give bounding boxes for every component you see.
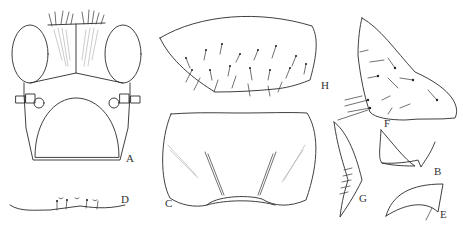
figure: A B C D E F G H — [0, 0, 463, 231]
panel-e-drawing — [386, 184, 443, 220]
panel-c-drawing — [163, 113, 316, 207]
panel-label-c: C — [165, 198, 172, 209]
panel-label-g: G — [359, 193, 367, 204]
panel-label-b: B — [434, 166, 441, 177]
panel-label-a: A — [126, 153, 134, 164]
figure-drawing — [0, 0, 463, 231]
panel-a-drawing — [12, 10, 141, 160]
panel-f-drawing — [338, 18, 457, 120]
panel-label-h: H — [321, 80, 329, 91]
panel-label-d: D — [121, 194, 129, 205]
panel-label-e: E — [440, 209, 447, 220]
panel-label-f: F — [384, 118, 390, 129]
panel-g-drawing — [334, 122, 362, 217]
panel-h-drawing — [160, 16, 316, 96]
panel-d-drawing — [10, 198, 125, 210]
panel-b-drawing — [380, 130, 435, 167]
